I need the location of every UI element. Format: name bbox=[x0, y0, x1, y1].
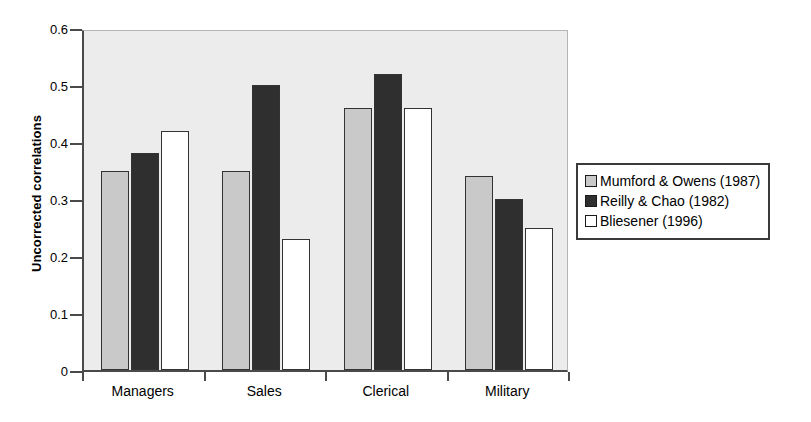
bar-chart-figure: Uncorrected correlations 00.10.20.30.40.… bbox=[0, 0, 811, 422]
chart-legend: Mumford & Owens (1987)Reilly & Chao (198… bbox=[576, 163, 770, 240]
bar-group bbox=[327, 31, 449, 370]
bar bbox=[344, 108, 372, 370]
bars-layer bbox=[84, 31, 567, 370]
bar-group bbox=[84, 31, 206, 370]
x-axis-tick bbox=[325, 372, 327, 381]
plot-area bbox=[82, 30, 568, 372]
legend-swatch-icon bbox=[585, 195, 597, 207]
legend-item: Bliesener (1996) bbox=[585, 211, 760, 231]
y-axis-tick-label: 0.5 bbox=[8, 80, 68, 93]
y-axis-tick-label: 0.6 bbox=[8, 23, 68, 36]
y-axis-tick bbox=[70, 200, 82, 202]
legend-item-label: Bliesener (1996) bbox=[600, 214, 703, 228]
bar bbox=[525, 228, 553, 371]
bar-group bbox=[449, 31, 571, 370]
y-axis-tick bbox=[70, 143, 82, 145]
legend-item: Reilly & Chao (1982) bbox=[585, 191, 760, 211]
y-axis-tick-label: 0.3 bbox=[8, 194, 68, 207]
y-axis-tick-label: 0.4 bbox=[8, 137, 68, 150]
x-axis-tick bbox=[447, 372, 449, 381]
legend-item-label: Mumford & Owens (1987) bbox=[600, 174, 760, 188]
y-axis-tick bbox=[70, 257, 82, 259]
bar bbox=[131, 153, 159, 370]
bar-group bbox=[206, 31, 328, 370]
bar bbox=[374, 74, 402, 370]
y-axis-tick bbox=[70, 371, 82, 373]
legend-item-label: Reilly & Chao (1982) bbox=[600, 194, 729, 208]
bar bbox=[222, 171, 250, 371]
x-axis-tick bbox=[82, 372, 84, 381]
y-axis-tick-label: 0 bbox=[8, 365, 68, 378]
bar bbox=[495, 199, 523, 370]
bar bbox=[282, 239, 310, 370]
legend-item: Mumford & Owens (1987) bbox=[585, 171, 760, 191]
x-axis-tick bbox=[568, 372, 570, 381]
bar bbox=[465, 176, 493, 370]
x-axis-tick bbox=[204, 372, 206, 381]
legend-swatch-icon bbox=[585, 215, 597, 227]
y-axis-tick bbox=[70, 29, 82, 31]
y-axis-tick-label: 0.2 bbox=[8, 251, 68, 264]
bar bbox=[404, 108, 432, 370]
y-axis-tick bbox=[70, 314, 82, 316]
bar bbox=[101, 171, 129, 371]
x-axis-category-label: Military bbox=[427, 383, 587, 399]
y-axis-tick-label: 0.1 bbox=[8, 308, 68, 321]
legend-swatch-icon bbox=[585, 175, 597, 187]
bar bbox=[252, 85, 280, 370]
bar bbox=[161, 131, 189, 370]
y-axis-tick bbox=[70, 86, 82, 88]
